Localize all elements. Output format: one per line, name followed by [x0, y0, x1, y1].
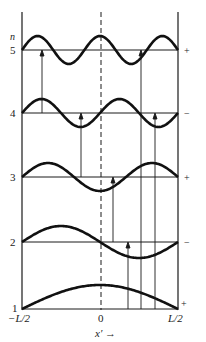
- arrowhead-icon: [111, 177, 115, 183]
- x-tick-left: −L/2: [8, 312, 31, 324]
- sign-marker-5: +: [184, 45, 190, 56]
- x-tick-right: L/2: [167, 312, 183, 324]
- level-label-2: 2: [10, 236, 16, 248]
- transition-arrows: [40, 50, 157, 309]
- arrowhead-icon: [40, 50, 44, 56]
- x-axis-label: x′ →: [94, 327, 116, 339]
- level-label-4: 4: [10, 107, 16, 119]
- level-label-5: 5: [10, 44, 16, 56]
- sign-marker-3: +: [184, 172, 190, 183]
- arrowhead-icon: [79, 113, 83, 119]
- x-tick-center: 0: [98, 312, 104, 324]
- sign-marker-1: +: [181, 298, 187, 309]
- sign-marker-4: −: [184, 108, 190, 119]
- y-axis-label: n: [10, 31, 15, 42]
- level-label-3: 3: [10, 171, 16, 183]
- arrowhead-icon: [126, 242, 130, 248]
- sign-marker-2: −: [184, 237, 190, 248]
- standing-wave-diagram: n 5 4 3 2 1 + − + − + −L/2 0 L/2 x′ →: [0, 0, 206, 342]
- arrowhead-icon: [153, 113, 157, 119]
- arrowhead-icon: [139, 50, 143, 56]
